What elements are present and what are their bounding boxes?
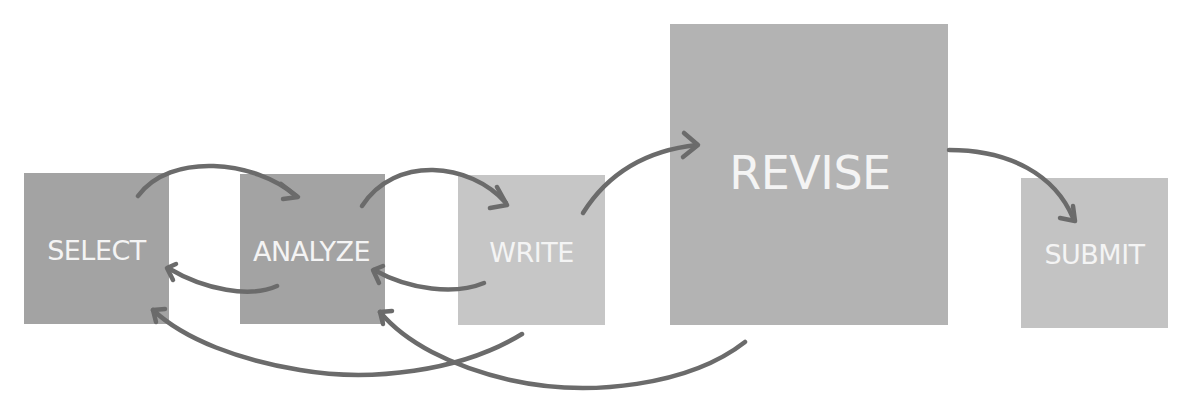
node-label-revise: REVISE (729, 146, 890, 200)
node-analyze: ANALYZE (240, 174, 385, 324)
node-label-write: WRITE (489, 237, 573, 268)
node-submit: SUBMIT (1021, 178, 1168, 328)
node-write: WRITE (458, 175, 605, 325)
node-label-analyze: ANALYZE (253, 236, 370, 267)
node-label-select: SELECT (47, 235, 146, 266)
node-select: SELECT (24, 173, 169, 324)
node-label-submit: SUBMIT (1044, 239, 1144, 270)
node-revise: REVISE (670, 24, 948, 325)
